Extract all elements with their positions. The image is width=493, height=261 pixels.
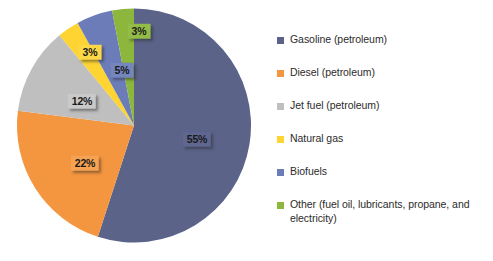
legend-item-label: Gasoline (petroleum) <box>290 33 387 47</box>
legend-swatch-icon <box>277 169 284 176</box>
pie-data-label: 3% <box>79 45 102 60</box>
pie-data-label: 5% <box>111 63 134 78</box>
pie-svg <box>0 0 268 261</box>
legend-item[interactable]: Gasoline (petroleum) <box>277 33 489 66</box>
pie-data-label: 55% <box>183 132 211 147</box>
pie-chart: 55%22%12%3%5%3% Gasoline (petroleum)Dies… <box>0 0 493 261</box>
pie-data-label: 12% <box>68 94 96 109</box>
pie-data-label: 3% <box>128 24 151 39</box>
chart-legend: Gasoline (petroleum)Diesel (petroleum)Je… <box>277 33 489 225</box>
legend-swatch-icon <box>277 103 284 110</box>
legend-item[interactable]: Natural gas <box>277 132 489 165</box>
legend-item[interactable]: Diesel (petroleum) <box>277 66 489 99</box>
legend-item-label: Natural gas <box>290 132 343 146</box>
legend-item-label: Biofuels <box>290 165 327 179</box>
legend-swatch-icon <box>277 37 284 44</box>
legend-item-label: Diesel (petroleum) <box>290 66 375 80</box>
pie-plot-area: 55%22%12%3%5%3% <box>0 0 268 261</box>
pie-data-label: 22% <box>71 156 99 171</box>
legend-swatch-icon <box>277 70 284 77</box>
legend-swatch-icon <box>277 136 284 143</box>
legend-item[interactable]: Jet fuel (petroleum) <box>277 99 489 132</box>
legend-item-label: Other (fuel oil, lubricants, propane, an… <box>290 198 489 225</box>
legend-item[interactable]: Other (fuel oil, lubricants, propane, an… <box>277 198 489 225</box>
legend-swatch-icon <box>277 202 284 209</box>
pie-slice-group <box>17 8 251 242</box>
legend-item-label: Jet fuel (petroleum) <box>290 99 379 113</box>
legend-item[interactable]: Biofuels <box>277 165 489 198</box>
